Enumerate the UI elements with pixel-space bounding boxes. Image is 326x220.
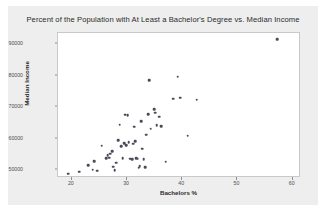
plot-area — [57, 32, 300, 177]
scatter-point — [177, 76, 180, 79]
y-tick-label: 90000 — [0, 40, 23, 46]
y-tick-label: 70000 — [0, 103, 23, 109]
scatter-point — [158, 115, 161, 118]
scatter-point — [126, 114, 129, 117]
scatter-point — [195, 99, 198, 102]
scatter-point — [138, 165, 141, 168]
y-tick-mark — [55, 137, 58, 138]
scatter-point — [115, 162, 118, 165]
x-tick-mark — [181, 177, 182, 180]
scatter-point — [160, 125, 163, 128]
x-tick-label: 50 — [224, 180, 248, 186]
x-tick-label: 30 — [114, 180, 138, 186]
scatter-point — [91, 169, 94, 172]
scatter-point — [120, 145, 123, 148]
scatter-point — [105, 157, 108, 160]
scatter-point — [121, 157, 124, 160]
scatter-point — [276, 38, 279, 41]
scatter-point — [141, 147, 144, 150]
scatter-point — [78, 170, 81, 173]
y-tick-mark — [55, 74, 58, 75]
scatter-point — [119, 123, 122, 126]
y-tick-mark — [55, 43, 58, 44]
scatter-point — [149, 127, 152, 130]
chart-figure: Percent of the Population with At Least … — [8, 6, 318, 205]
scatter-point — [117, 139, 120, 142]
x-axis-label: Bachelors % — [57, 189, 300, 196]
scatter-point — [140, 120, 143, 123]
scatter-point — [131, 158, 134, 161]
scatter-point — [125, 144, 128, 147]
scatter-point — [186, 134, 189, 137]
y-tick-mark — [55, 169, 58, 170]
x-tick-mark — [126, 177, 127, 180]
scatter-point — [96, 169, 99, 172]
scatter-point — [145, 134, 148, 137]
scatter-point — [109, 152, 112, 155]
x-tick-label: 20 — [59, 180, 83, 186]
x-tick-label: 40 — [169, 180, 193, 186]
scatter-point — [100, 144, 103, 147]
scatter-point — [112, 165, 115, 168]
scatter-point — [87, 164, 90, 167]
scatter-point — [148, 79, 151, 82]
scatter-point — [147, 113, 150, 116]
y-tick-mark — [55, 106, 58, 107]
scatter-point — [132, 142, 135, 145]
x-tick-mark — [71, 177, 72, 180]
scatter-point — [134, 140, 137, 143]
scatter-point — [142, 158, 145, 161]
scatter-point — [111, 150, 114, 153]
scatter-point — [108, 157, 111, 160]
chart-title: Percent of the Population with At Least … — [8, 15, 318, 24]
scatter-point — [93, 160, 96, 163]
x-tick-mark — [236, 177, 237, 180]
scatter-point — [114, 169, 117, 172]
scatter-point — [136, 157, 139, 160]
scatter-point — [127, 141, 130, 144]
y-tick-label: 80000 — [0, 72, 23, 78]
y-axis-label: Median Income — [23, 44, 30, 124]
x-tick-label: 60 — [280, 180, 304, 186]
y-tick-label: 60000 — [0, 135, 23, 141]
scatter-point — [164, 160, 167, 163]
scatter-point — [156, 124, 159, 127]
x-tick-mark — [292, 177, 293, 180]
scatter-point — [153, 108, 156, 111]
scatter-point — [172, 98, 175, 101]
scatter-point — [133, 125, 136, 128]
scatter-point — [179, 96, 182, 99]
scatter-point — [154, 111, 157, 114]
scatter-point — [144, 166, 147, 169]
scatter-point — [67, 172, 70, 175]
y-tick-label: 50000 — [0, 166, 23, 172]
